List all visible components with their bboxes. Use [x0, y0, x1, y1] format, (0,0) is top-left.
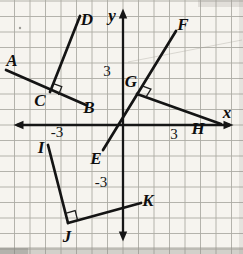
point-label-G: G: [125, 72, 138, 91]
point-label-K: K: [141, 191, 155, 210]
x-axis-label: x: [222, 103, 232, 122]
point-label-B: B: [82, 98, 94, 117]
point-label-A: A: [5, 51, 17, 70]
figure-background: [0, 0, 243, 254]
tick-label-x-3: 3: [170, 126, 178, 142]
tick-label-y--3: -3: [95, 174, 108, 190]
tick-label-y-3: 3: [103, 63, 111, 79]
coordinate-plane-figure: xy3-33-3ABCDEFGHIJK: [0, 0, 243, 254]
point-label-H: H: [190, 119, 205, 138]
tick-label-x--3: -3: [51, 124, 64, 140]
point-label-F: F: [176, 15, 189, 34]
scan-edge-shade-bottom-left: [0, 248, 28, 254]
point-label-J: J: [62, 227, 72, 246]
point-label-E: E: [89, 149, 101, 168]
point-label-D: D: [80, 10, 93, 29]
point-label-C: C: [34, 91, 46, 110]
y-axis-label: y: [106, 6, 116, 25]
figure-page: xy3-33-3ABCDEFGHIJK: [0, 0, 243, 254]
scan-edge-shade-top-right: [198, 0, 243, 7]
scan-edge-shade-bottom: [0, 247, 243, 254]
scan-speck: [19, 27, 21, 29]
scan-edge-shade-right: [239, 0, 243, 254]
